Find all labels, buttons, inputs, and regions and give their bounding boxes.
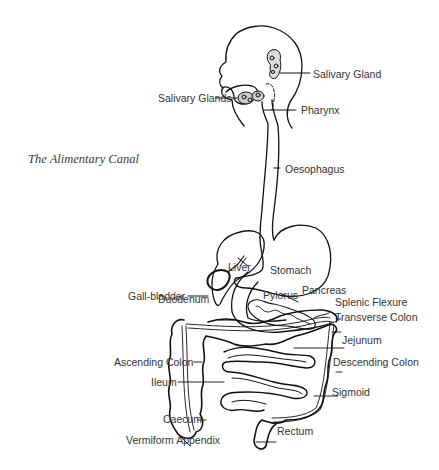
label-jejunum: Jejunum: [342, 334, 382, 346]
label-ascending-colon: Ascending Colon: [114, 356, 193, 368]
label-salivary-glands: Salivary Glands: [158, 92, 232, 104]
label-descending-colon: Descending Colon: [333, 356, 419, 368]
label-stomach: Stomach: [270, 264, 311, 276]
pharynx-tube: [264, 84, 296, 110]
salivary-gland-parotid: [267, 50, 310, 79]
label-caecum: Caecum: [163, 413, 202, 425]
label-oesophagus: Oesophagus: [285, 163, 345, 175]
oesophagus-tube: [260, 100, 280, 240]
label-pylorus: Pylorus: [263, 289, 298, 301]
label-sigmoid: Sigmoid: [332, 386, 370, 398]
label-ileum: Ileum: [151, 376, 177, 388]
label-liver: Liver: [228, 261, 251, 273]
head-outline: [220, 26, 303, 128]
pancreas: [248, 300, 330, 330]
label-rectum: Rectum: [277, 425, 313, 437]
label-pancreas: Pancreas: [302, 284, 346, 296]
label-pharynx: Pharynx: [301, 104, 340, 116]
label-duodenum: Duodenum: [158, 293, 209, 305]
label-salivary-gland: Salivary Gland: [313, 68, 381, 80]
label-transverse-colon: Transverse Colon: [335, 311, 417, 323]
small-intestine: [221, 347, 315, 411]
diagram-title: The Alimentary Canal: [28, 152, 139, 167]
label-splenic-flexure: Splenic Flexure: [335, 296, 407, 308]
label-vermiform-appendix: Vermiform Appendix: [126, 434, 220, 446]
alimentary-canal-diagram: The Alimentary Canal Salivary Gland Sali…: [0, 0, 439, 470]
